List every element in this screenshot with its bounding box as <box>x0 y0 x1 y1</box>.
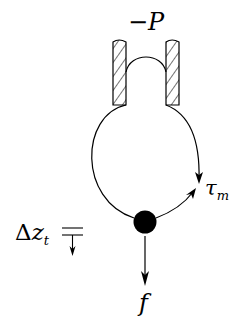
force-text: f <box>139 289 148 317</box>
loop-curve-left <box>92 105 134 218</box>
displacement-subscript: t <box>44 233 49 248</box>
loop-curve-right-lower <box>156 192 193 218</box>
torque-arrowhead-up <box>186 188 196 199</box>
displacement-label: Δzt <box>15 221 49 244</box>
torque-subscript: m <box>217 188 229 203</box>
diagram-canvas: −P τm f Δzt <box>0 0 239 330</box>
membrane-dome <box>126 57 166 72</box>
ball-mass <box>134 211 157 234</box>
displacement-marker <box>62 228 83 256</box>
torque-symbol: τ <box>205 176 217 200</box>
right-hatched-wall <box>166 40 179 105</box>
loop-curve-right-upper <box>166 105 199 180</box>
pressure-text: −P <box>128 8 164 36</box>
force-label: f <box>139 291 148 315</box>
delta-symbol: Δ <box>15 219 32 245</box>
pressure-label: −P <box>128 10 164 34</box>
displacement-variable: z <box>32 219 44 245</box>
torque-label: τm <box>205 178 229 199</box>
left-hatched-wall <box>113 40 126 105</box>
diagram-graphic <box>0 0 239 330</box>
